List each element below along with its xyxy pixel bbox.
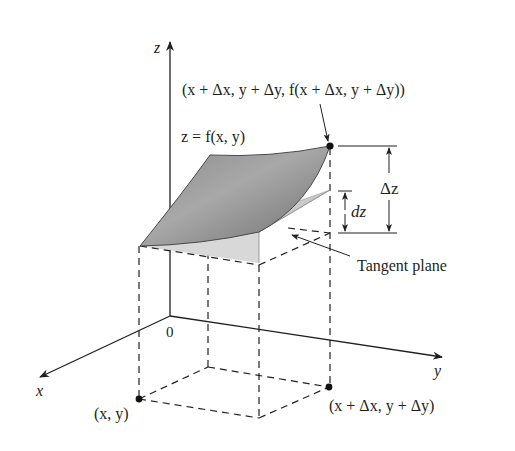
tangent-plane-label: Tangent plane [357, 257, 447, 275]
delta-z-label: Δz [380, 179, 399, 198]
dz-bracket [338, 191, 352, 231]
x-axis-label: x [35, 382, 43, 399]
top-point-pointer [320, 104, 328, 141]
base-rectangle [139, 367, 329, 418]
shifted-point [326, 384, 333, 391]
dz-label: dz [351, 202, 367, 221]
x-axis [40, 316, 170, 377]
y-axis-label: y [432, 362, 442, 380]
surface-label: z = f(x, y) [181, 128, 245, 146]
differential-diagram: z x y 0 (x + Δx, y + Δy, f(x + Δx, y + Δ… [0, 0, 515, 451]
top-point [326, 142, 333, 149]
y-axis [170, 316, 442, 357]
base-point [136, 396, 143, 403]
z-axis-label: z [153, 39, 161, 56]
shifted-point-label: (x + Δx, y + Δy) [329, 397, 434, 415]
top-point-label: (x + Δx, y + Δy, f(x + Δx, y + Δy)) [182, 81, 405, 99]
surface [140, 146, 330, 246]
tangent-plane-pointer [292, 235, 350, 256]
origin-label: 0 [166, 324, 174, 340]
base-point-label: (x, y) [94, 405, 129, 423]
